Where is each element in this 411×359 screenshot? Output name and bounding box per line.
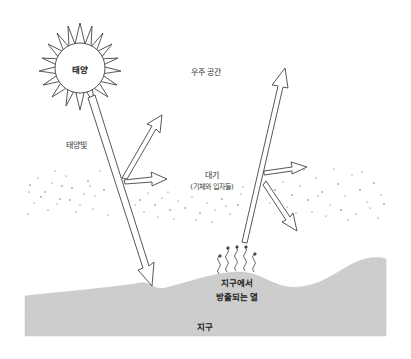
- atmosphere-note-label: (기체와 입자들): [190, 181, 234, 191]
- sunlight-label: 태양빛: [66, 139, 87, 150]
- sun-label: 태양: [72, 63, 88, 75]
- earth-label: 지구: [197, 320, 213, 332]
- heat-waves-icon: [218, 246, 257, 274]
- greenhouse-effect-diagram: 태양 우주 공간 태양빛 대기 (기체와 입자들) 지구에서 방출되는 열 지구: [0, 0, 411, 359]
- earth-heat-label-line2: 방출되는 열: [216, 290, 259, 302]
- reflected-sunlight-arrows: [122, 115, 167, 186]
- earth-radiation-arrows: [242, 68, 307, 243]
- space-label: 우주 공간: [191, 66, 222, 77]
- atmosphere-label: 대기: [205, 169, 219, 180]
- incoming-sunlight-arrow: [88, 95, 154, 286]
- earth-heat-label-line1: 지구에서: [221, 276, 253, 288]
